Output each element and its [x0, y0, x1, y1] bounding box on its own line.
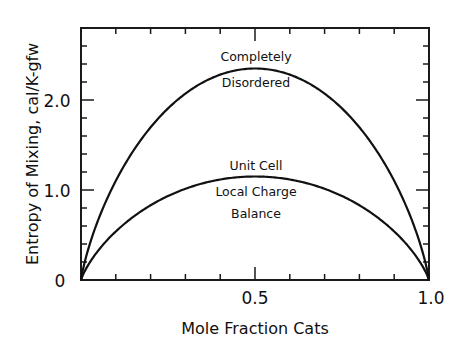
- y-tick-label-0: 0: [55, 271, 66, 291]
- annotation-local-charge: Local Charge: [215, 184, 297, 199]
- annotation-disordered: Disordered: [222, 75, 290, 90]
- entropy-of-mixing-chart: 0 1.0 2.0 0.5 1.0 Mole Fraction Cats Ent…: [0, 0, 466, 344]
- axis-ticks: [81, 28, 429, 280]
- y-axis-title: Entropy of Mixing, cal/K-gfw: [23, 43, 42, 265]
- y-tick-label-1: 1.0: [43, 181, 70, 201]
- plot-frame: [81, 28, 429, 280]
- annotation-completely: Completely: [220, 49, 292, 64]
- curves: [81, 69, 429, 281]
- annotation-unit-cell: Unit Cell: [230, 158, 283, 173]
- curve-completely-disordered: [81, 69, 429, 281]
- x-axis-title: Mole Fraction Cats: [181, 319, 329, 338]
- annotation-balance: Balance: [231, 206, 281, 221]
- y-tick-label-2: 2.0: [43, 91, 70, 111]
- x-tick-label-end: 1.0: [417, 288, 444, 308]
- x-tick-label-mid: 0.5: [241, 288, 268, 308]
- plot-border: [81, 28, 429, 280]
